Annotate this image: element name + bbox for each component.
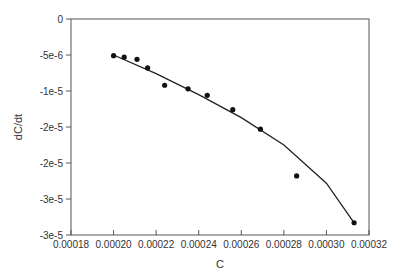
x-tick-label: 0.00022 xyxy=(138,239,175,250)
x-tick-label: 0.00028 xyxy=(266,239,303,250)
x-axis-ticks: 0.000180.000200.000220.000240.000260.000… xyxy=(53,230,388,250)
y-axis-label: dC/dt xyxy=(12,114,24,140)
data-point xyxy=(230,107,235,112)
x-tick-label: 0.00026 xyxy=(223,239,260,250)
data-point xyxy=(185,86,190,91)
data-point xyxy=(111,53,116,58)
data-point xyxy=(352,220,357,225)
y-tick-label: -3e-5 xyxy=(40,230,64,241)
plot-axes xyxy=(71,19,369,235)
data-point xyxy=(134,57,139,62)
data-point xyxy=(258,127,263,132)
x-tick-label: 0.00032 xyxy=(351,239,388,250)
data-point xyxy=(122,55,127,60)
y-tick-label: -1e-5 xyxy=(40,86,64,97)
data-point xyxy=(294,173,299,178)
x-tick-label: 0.00024 xyxy=(181,239,218,250)
y-tick-label: -5e-6 xyxy=(40,50,64,61)
y-tick-label: -3e-5 xyxy=(40,194,64,205)
x-tick-label: 0.00030 xyxy=(308,239,345,250)
fit-curve xyxy=(114,55,355,223)
y-tick-label: 0 xyxy=(57,14,63,25)
y-tick-label: -2e-5 xyxy=(40,158,64,169)
data-point xyxy=(205,93,210,98)
scatter-chart: 0.000180.000200.000220.000240.000260.000… xyxy=(0,0,407,278)
data-point xyxy=(162,83,167,88)
y-axis-ticks: 0-5e-6-1e-5-2e-5-2e-5-3e-5-3e-5 xyxy=(40,14,71,241)
y-tick-label: -2e-5 xyxy=(40,122,64,133)
data-points xyxy=(111,53,357,225)
data-point xyxy=(145,65,150,70)
x-axis-label: C xyxy=(216,258,224,270)
x-tick-label: 0.00018 xyxy=(53,239,90,250)
x-tick-label: 0.00020 xyxy=(95,239,132,250)
